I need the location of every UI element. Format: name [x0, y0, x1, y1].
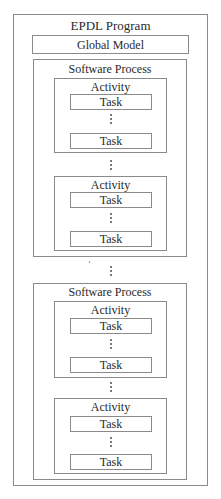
task-box-2-1-1: Task — [70, 318, 152, 334]
stray-mark — [89, 261, 90, 263]
software-process-label-2: Software Process — [33, 285, 187, 299]
task-label: Task — [71, 455, 151, 469]
task-label: Task — [71, 95, 151, 109]
task-label: Task — [71, 358, 151, 372]
global-model-label: Global Model — [33, 36, 188, 53]
vertical-ellipsis-icon — [110, 382, 112, 394]
task-label: Task — [71, 193, 151, 207]
task-box-1-1-2: Task — [70, 133, 152, 149]
task-box-2-2-1: Task — [70, 416, 152, 432]
vertical-ellipsis-icon — [110, 114, 112, 126]
task-box-1-1-1: Task — [70, 94, 152, 110]
task-label: Task — [71, 134, 151, 148]
activity-label-1-2: Activity — [54, 178, 167, 192]
activity-label-1-1: Activity — [54, 80, 167, 94]
vertical-ellipsis-icon — [110, 213, 112, 225]
task-label: Task — [71, 417, 151, 431]
task-label: Task — [71, 232, 151, 246]
task-label: Task — [71, 319, 151, 333]
software-process-label-1: Software Process — [33, 62, 187, 76]
task-box-2-2-2: Task — [70, 454, 152, 470]
task-box-1-2-1: Task — [70, 192, 152, 208]
vertical-ellipsis-icon — [110, 437, 112, 449]
vertical-ellipsis-icon — [110, 339, 112, 351]
epdl-program-title: EPDL Program — [13, 19, 208, 33]
global-model-box: Global Model — [32, 35, 189, 54]
activity-label-2-2: Activity — [54, 400, 167, 414]
activity-label-2-1: Activity — [54, 303, 167, 317]
vertical-ellipsis-icon — [110, 266, 112, 278]
vertical-ellipsis-icon — [110, 160, 112, 172]
task-box-1-2-2: Task — [70, 231, 152, 247]
task-box-2-1-2: Task — [70, 357, 152, 373]
